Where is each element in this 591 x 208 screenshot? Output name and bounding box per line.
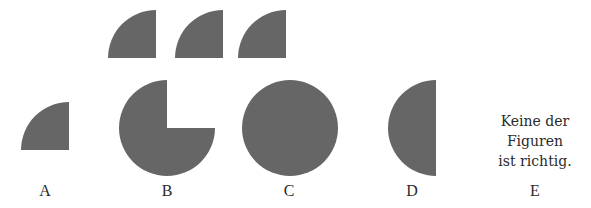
option-e-line-3: ist richtig.: [498, 151, 571, 171]
puzzle-diagram: Keine der Figuren ist richtig. A B C D E: [0, 0, 591, 208]
option-b-three-quarter-circle[interactable]: [119, 80, 215, 176]
option-d-half-circle[interactable]: [388, 80, 436, 176]
option-c-label[interactable]: C: [284, 183, 295, 199]
given-quarter-circle-2: [175, 10, 223, 58]
option-c-full-circle[interactable]: [242, 80, 338, 176]
option-e-line-1: Keine der: [498, 111, 571, 131]
given-pieces: [108, 10, 286, 58]
option-b-label[interactable]: B: [162, 183, 173, 199]
option-a-quarter-circle[interactable]: [21, 102, 69, 150]
given-quarter-circle-3: [238, 10, 286, 58]
given-quarter-circle-1: [108, 10, 156, 58]
option-d-label[interactable]: D: [406, 183, 418, 199]
figures-canvas: [0, 0, 591, 208]
option-e-text[interactable]: Keine der Figuren ist richtig.: [498, 111, 571, 171]
option-e-line-2: Figuren: [498, 131, 571, 151]
option-a-label[interactable]: A: [39, 183, 51, 199]
option-e-label[interactable]: E: [530, 183, 540, 199]
